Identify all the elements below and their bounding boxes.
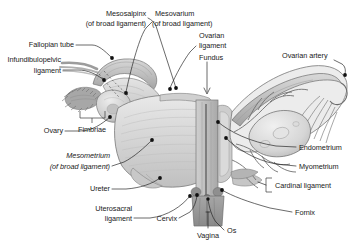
label-mesometrium-line2: (of broad ligament): [50, 162, 110, 171]
label-fundus: Fundus: [199, 53, 223, 62]
leader-dot-ovarian-ligament: [168, 87, 172, 91]
leader-dot-uterosacral: [188, 194, 192, 198]
label-uterosacral-line2: ligament: [105, 214, 132, 223]
leader-dot-cervix: [195, 193, 199, 197]
label-infundibulopelvic-line1: Infundibulopelvic: [7, 55, 61, 64]
label-os: Os: [227, 226, 237, 235]
cardinal-ligament-bracket: [266, 178, 272, 192]
leader-dot-ovarian-artery: [343, 73, 347, 77]
leader-dot-endometrium: [216, 120, 220, 124]
leader-dot-ovary: [108, 115, 112, 119]
label-vagina: Vagina: [197, 231, 220, 240]
label-cardinal-ligament: Cardinal ligament: [275, 181, 331, 190]
label-ovarian-ligament-line1: Ovarian: [199, 31, 224, 40]
leader-dot-infundibulopelvic: [102, 78, 106, 82]
leader-dot-myometrium: [224, 136, 228, 140]
label-fallopian-tube: Fallopian tube: [29, 40, 74, 49]
leader-dot-mesosalpinx: [174, 86, 178, 90]
label-mesometrium-line1: Mesometrium: [66, 151, 110, 160]
leader-dot-ureter: [158, 176, 162, 180]
leader-dot-fallopian-tube: [110, 56, 114, 60]
leader-dot-mesovarium: [124, 91, 128, 95]
label-mesosalpinx-line1: Mesosalpinx: [106, 9, 146, 18]
label-uterosacral-line1: Uterosacral: [95, 204, 132, 213]
label-fornix: Fornix: [295, 208, 315, 217]
label-cervix: Cervix: [157, 214, 178, 223]
label-endometrium: Endometrium: [299, 143, 342, 152]
label-infundibulopelvic-line2: ligament: [34, 66, 61, 75]
label-mesosalpinx-line2: (of broad ligament): [86, 19, 146, 28]
uterus-body-shape: [115, 95, 208, 187]
uterine-wall-layers: [218, 105, 232, 182]
fimbriae-shape: [62, 87, 101, 112]
leader-dot-os: [206, 197, 209, 200]
label-ovarian-artery: Ovarian artery: [282, 51, 328, 60]
label-fimbriae: Fimbriae: [78, 125, 106, 134]
leader-dot-mesometrium: [150, 138, 154, 142]
label-mesovarium-line2: (of broad ligament): [152, 19, 212, 28]
label-myometrium: Myometrium: [299, 162, 339, 171]
label-ureter: Ureter: [90, 184, 111, 193]
leader-dot-fornix: [220, 188, 224, 192]
anatomy-illustration: Mesosalpinx (of broad ligament) Fallopia…: [0, 0, 359, 249]
label-mesovarium-line1: Mesovarium: [155, 9, 194, 18]
label-ovary: Ovary: [44, 126, 64, 135]
label-ovarian-ligament-line2: ligament: [199, 41, 226, 50]
anatomy-figure: Mesosalpinx (of broad ligament) Fallopia…: [0, 0, 359, 249]
